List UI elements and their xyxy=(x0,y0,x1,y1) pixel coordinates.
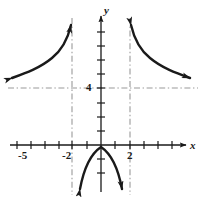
x-tick-label-2: 2 xyxy=(127,150,133,161)
y-tick-label-4: 4 xyxy=(86,82,92,93)
x-tick-label-minus-5: -5 xyxy=(18,150,27,161)
y-axis-label: y xyxy=(104,5,109,16)
curve-right-branch xyxy=(131,25,190,78)
asymptote-group xyxy=(8,18,198,195)
graph-figure: -5 -2 2 4 x y xyxy=(0,0,205,197)
plot-canvas xyxy=(0,0,205,197)
curve-left-branch xyxy=(12,25,71,78)
x-tick-label-minus-2: -2 xyxy=(62,150,71,161)
axis-group xyxy=(10,16,186,192)
x-axis-label: x xyxy=(190,140,196,151)
